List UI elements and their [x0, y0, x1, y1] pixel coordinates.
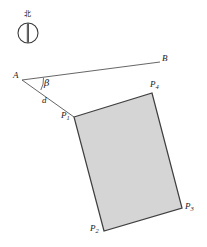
point-label-P3: P3 — [185, 202, 194, 211]
point-label-P1-base: P — [61, 110, 67, 120]
point-label-P4-base: P — [150, 79, 156, 89]
shaded-rectangle — [74, 93, 182, 231]
figure-canvas — [0, 0, 207, 247]
point-label-P3-base: P — [185, 201, 191, 211]
point-label-P2-sub: 2 — [96, 227, 99, 234]
segment-A-B — [22, 62, 160, 80]
point-label-P3-sub: 3 — [191, 205, 194, 212]
point-label-P4: P4 — [150, 80, 159, 89]
point-label-A: A — [13, 71, 19, 80]
point-label-P1: P1 — [61, 111, 70, 120]
angle-beta-label: β — [44, 78, 50, 88]
distance-d-label: d — [42, 96, 47, 105]
point-label-B: B — [162, 54, 168, 63]
point-label-P4-sub: 4 — [156, 83, 159, 90]
compass-north-label: 北 — [24, 11, 31, 18]
compass-north-icon — [18, 23, 38, 43]
point-label-P1-sub: 1 — [67, 114, 70, 121]
geometry-figure: 北 A B P1 P2 P3 P4 β d — [0, 0, 207, 247]
point-label-P2-base: P — [90, 223, 96, 233]
point-label-P2: P2 — [90, 224, 99, 233]
